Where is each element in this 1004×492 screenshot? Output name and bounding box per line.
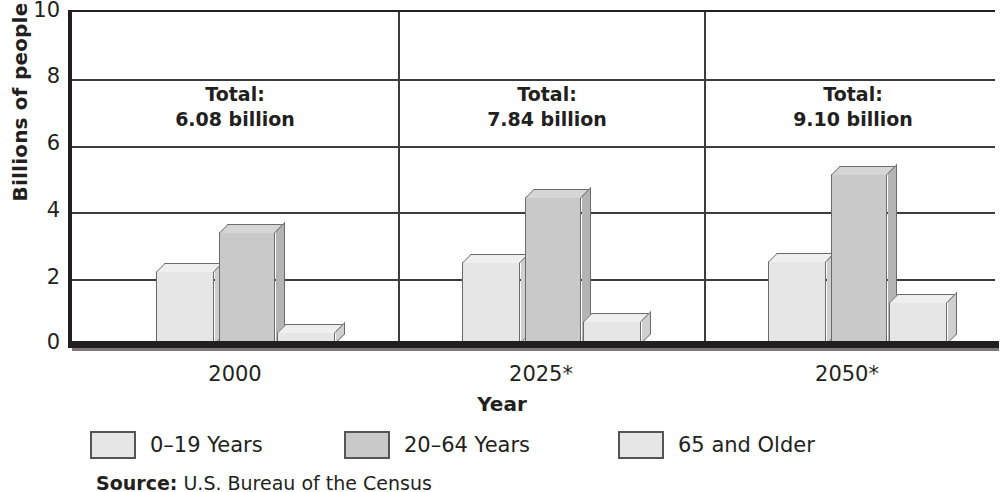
source-value: U.S. Bureau of the Census <box>183 472 431 492</box>
bar-2025-0-19 <box>462 262 520 344</box>
total-annotation-line1: Total: <box>120 82 350 107</box>
y-tick-10: 10 <box>30 0 60 21</box>
total-annotation-line2: 7.84 billion <box>432 107 662 132</box>
bar-2050-65-older <box>889 302 947 344</box>
chart-legend: 0–19 Years 20–64 Years 65 and Older <box>90 428 940 462</box>
y-axis-title: Billions of people <box>8 0 32 242</box>
bar-side-face <box>276 222 285 343</box>
gridline-8 <box>72 79 995 81</box>
bar-2000-0-19 <box>156 271 214 345</box>
bar-top-face <box>156 263 223 272</box>
y-tick-6: 6 <box>30 133 60 154</box>
legend-label-20-64: 20–64 Years <box>404 433 530 457</box>
bar-2000-20-64 <box>219 232 275 344</box>
x-axis-baseline-shadow <box>72 348 999 351</box>
legend-swatch-65-older-icon <box>618 431 664 459</box>
bar-top-face <box>583 313 650 322</box>
total-annotation-2025: Total: 7.84 billion <box>432 82 662 132</box>
gridline-6 <box>72 146 995 148</box>
total-annotation-line1: Total: <box>738 82 968 107</box>
legend-label-65-older: 65 and Older <box>678 433 815 457</box>
x-tick-2025: 2025* <box>441 362 641 386</box>
legend-item-20-64: 20–64 Years <box>344 428 530 462</box>
group-divider-2 <box>704 12 706 344</box>
total-annotation-line2: 9.10 billion <box>738 107 968 132</box>
bar-top-face <box>277 324 344 333</box>
source-label: Source: <box>96 472 177 492</box>
bar-2050-20-64 <box>831 174 887 344</box>
bar-top-face <box>219 224 284 233</box>
total-annotation-2050: Total: 9.10 billion <box>738 82 968 132</box>
bar-2025-20-64 <box>525 197 581 344</box>
x-axis-title: Year <box>0 392 1004 416</box>
legend-swatch-20-64-icon <box>344 431 390 459</box>
plot-area <box>68 10 995 344</box>
bar-top-face <box>768 253 835 262</box>
population-bar-chart: Billions of people 10 8 6 4 2 0 <box>0 0 1004 492</box>
bar-side-face <box>948 292 957 343</box>
legend-swatch-0-19-icon <box>90 431 136 459</box>
legend-label-0-19: 0–19 Years <box>150 433 263 457</box>
y-tick-0: 0 <box>30 332 60 353</box>
x-axis-baseline <box>68 341 999 348</box>
total-annotation-line1: Total: <box>432 82 662 107</box>
bar-top-face <box>831 166 896 175</box>
bar-top-face <box>525 189 590 198</box>
y-tick-2: 2 <box>30 267 60 288</box>
bar-top-face <box>462 254 529 263</box>
legend-item-0-19: 0–19 Years <box>90 428 263 462</box>
y-tick-4: 4 <box>30 200 60 221</box>
source-note: Source: U.S. Bureau of the Census <box>96 472 432 492</box>
y-tick-8: 8 <box>30 66 60 87</box>
x-tick-2000: 2000 <box>135 362 335 386</box>
group-divider-1 <box>398 12 400 344</box>
total-annotation-2000: Total: 6.08 billion <box>120 82 350 132</box>
legend-item-65-older: 65 and Older <box>618 428 815 462</box>
x-tick-2050: 2050* <box>747 362 947 386</box>
bar-2050-0-19 <box>768 261 826 345</box>
total-annotation-line2: 6.08 billion <box>120 107 350 132</box>
bar-top-face <box>889 294 956 303</box>
